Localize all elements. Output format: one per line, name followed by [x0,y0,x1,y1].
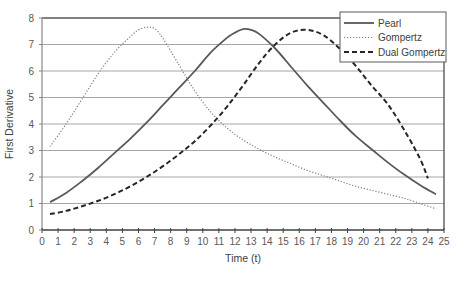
x-tick-label: 4 [104,236,110,247]
legend: PearlGompertzDual Gompertz [340,12,446,62]
x-tick-label: 8 [168,236,174,247]
y-axis-ticks: 012345678 [28,13,42,236]
x-tick-label: 25 [438,236,450,247]
x-tick-label: 19 [342,236,354,247]
x-tick-label: 1 [55,236,61,247]
x-tick-label: 14 [262,236,274,247]
line-chart: 0123456789101112131415161718192021222324… [0,0,465,282]
x-tick-label: 2 [71,236,77,247]
y-tick-label: 1 [28,198,34,209]
x-tick-label: 3 [87,236,93,247]
x-tick-label: 12 [229,236,241,247]
x-tick-label: 17 [310,236,322,247]
x-tick-label: 21 [374,236,386,247]
y-tick-label: 2 [28,172,34,183]
x-tick-label: 9 [184,236,190,247]
y-tick-label: 5 [28,92,34,103]
x-tick-label: 11 [214,236,225,247]
x-axis-title: Time (t) [225,252,261,264]
x-tick-label: 10 [197,236,209,247]
y-tick-label: 3 [28,145,34,156]
x-tick-label: 6 [136,236,142,247]
x-axis-ticks: 0123456789101112131415161718192021222324… [39,228,450,247]
legend-label: Gompertz [378,32,422,43]
y-tick-label: 0 [28,225,34,236]
x-tick-label: 23 [406,236,418,247]
x-tick-label: 18 [326,236,338,247]
y-tick-label: 4 [28,119,34,130]
x-tick-label: 16 [294,236,306,247]
x-tick-label: 24 [422,236,434,247]
x-tick-label: 22 [390,236,402,247]
x-tick-label: 20 [358,236,370,247]
x-tick-label: 0 [39,236,45,247]
y-tick-label: 6 [28,66,34,77]
x-tick-label: 5 [120,236,126,247]
legend-label: Pearl [378,18,401,29]
x-tick-label: 15 [278,236,290,247]
legend-label: Dual Gompertz [378,47,445,58]
y-tick-label: 8 [28,13,34,24]
x-tick-label: 13 [245,236,257,247]
x-tick-label: 7 [152,236,158,247]
y-axis-title: First Derivative [3,89,15,159]
y-tick-label: 7 [28,39,34,50]
